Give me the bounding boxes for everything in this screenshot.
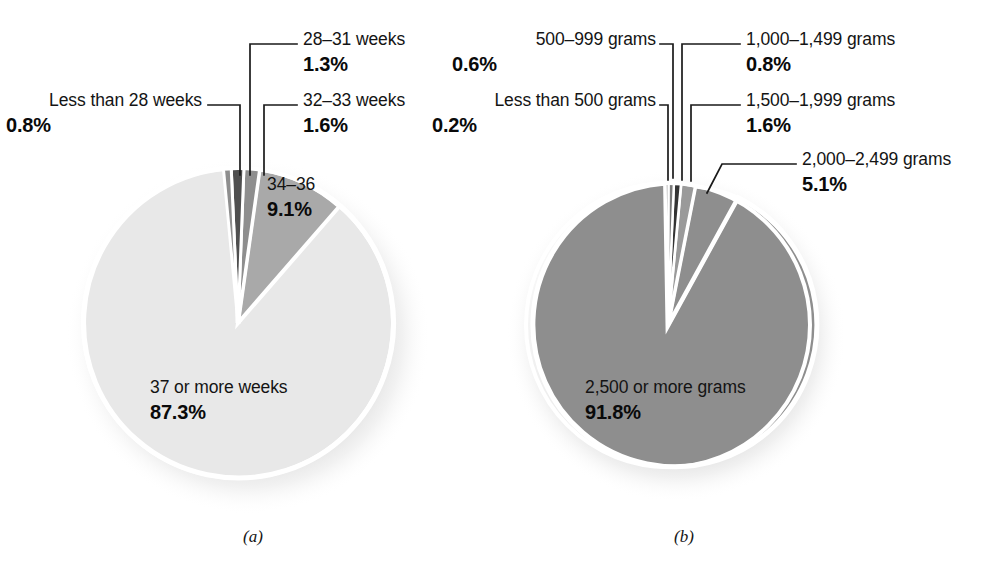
callout-2000-2499-grams: 2,000–2,499 grams 5.1% [802, 151, 951, 194]
callout-500-999-grams: 500–999 grams 0.6% [452, 31, 656, 74]
pie-charts-svg [0, 0, 997, 569]
callout-label-less-than-500-grams: Less than 500 grams [432, 92, 656, 110]
inlabel-34-36: 34–36 9.1% [267, 176, 315, 219]
callout-less-than-500-grams: Less than 500 grams 0.2% [432, 92, 656, 135]
callout-value-1500-1999-grams: 1.6% [746, 115, 895, 135]
callout-value-500-999-grams: 0.6% [452, 54, 656, 74]
inlabel-label-2500-or-more-grams: 2,500 or more grams [585, 379, 746, 397]
leader-line-1500-1999-grams [691, 105, 740, 181]
callout-value-2000-2499-grams: 5.1% [802, 174, 951, 194]
pie-chart-figure: Less than 28 weeks 0.8% 28–31 weeks 1.3%… [0, 0, 997, 569]
pie-a [83, 168, 394, 478]
callout-1500-1999-grams: 1,500–1,999 grams 1.6% [746, 92, 895, 135]
callout-label-1500-1999-grams: 1,500–1,999 grams [746, 92, 895, 110]
callout-value-32-33-weeks: 1.6% [303, 115, 405, 135]
inlabel-value-34-36: 9.1% [267, 199, 315, 219]
callout-value-28-31-weeks: 1.3% [303, 54, 405, 74]
inlabel-value-2500-or-more-grams: 91.8% [585, 402, 746, 422]
callout-1000-1499-grams: 1,000–1,499 grams 0.8% [746, 31, 895, 74]
callout-label-1000-1499-grams: 1,000–1,499 grams [746, 31, 895, 49]
leader-line-500-999-grams [660, 44, 673, 178]
inlabel-label-37-or-more-weeks: 37 or more weeks [150, 379, 288, 397]
caption-chart-b: (b) [674, 527, 694, 547]
inlabel-value-37-or-more-weeks: 87.3% [150, 402, 288, 422]
callout-28-31-weeks: 28–31 weeks 1.3% [303, 31, 405, 74]
leader-line-28-31-weeks [250, 44, 297, 175]
callout-label-less-than-28-weeks: Less than 28 weeks [6, 92, 202, 110]
callout-32-33-weeks: 32–33 weeks 1.6% [303, 92, 405, 135]
inlabel-37-or-more-weeks: 37 or more weeks 87.3% [150, 379, 288, 422]
callout-label-32-33-weeks: 32–33 weeks [303, 92, 405, 110]
callout-less-than-28-weeks: Less than 28 weeks 0.8% [6, 92, 202, 135]
inlabel-label-34-36: 34–36 [267, 176, 315, 194]
callout-label-28-31-weeks: 28–31 weeks [303, 31, 405, 49]
callout-label-2000-2499-grams: 2,000–2,499 grams [802, 151, 951, 169]
leader-line-less-than-500-grams [660, 105, 668, 180]
inlabel-2500-or-more-grams: 2,500 or more grams 91.8% [585, 379, 746, 422]
leader-lines-a [208, 44, 297, 175]
callout-value-less-than-500-grams: 0.2% [432, 115, 656, 135]
callout-value-less-than-28-weeks: 0.8% [6, 115, 202, 135]
caption-chart-a: (a) [243, 527, 263, 547]
callout-label-500-999-grams: 500–999 grams [452, 31, 656, 49]
callout-value-1000-1499-grams: 0.8% [746, 54, 895, 74]
